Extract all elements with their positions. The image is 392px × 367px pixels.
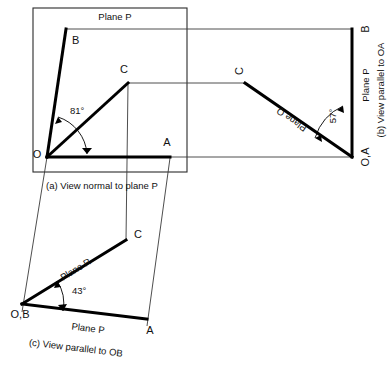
panel-b-plane-label-q: Plane Q — [274, 106, 309, 135]
drop-line-o — [22, 157, 47, 312]
panel-c-geometry — [22, 240, 147, 319]
projection-lines — [22, 8, 352, 326]
panel-b-point-b: B — [359, 25, 371, 32]
panel-c-point-c: C — [134, 228, 142, 240]
panel-a-point-o: O — [33, 148, 42, 160]
panel-a-geometry — [47, 29, 170, 157]
panel-c-caption: (c) View parallel to OB — [28, 337, 123, 359]
panel-a-plane-label: Plane P — [98, 11, 131, 22]
panel-c-plane-label-p: Plane P — [71, 321, 105, 336]
panel-c-angle-43: 43° — [72, 285, 87, 296]
line-ob-a — [47, 29, 66, 157]
panel-a-angle-81: 81° — [70, 105, 85, 116]
panel-b-caption: (b) View parallel to OA — [375, 42, 386, 138]
figure-canvas: Plane P B C O A 81° (a) View normal to p… — [0, 0, 392, 367]
panel-b-point-c: C — [233, 67, 245, 75]
panel-b-angle-57: 57° — [327, 109, 338, 124]
panel-a-caption: (a) View normal to plane P — [46, 180, 158, 191]
panel-a-point-c: C — [120, 63, 128, 75]
panel-b-plane-label-p: Plane P — [360, 68, 371, 101]
panel-a-point-a: A — [163, 136, 171, 148]
panel-b-geometry — [245, 29, 352, 157]
panel-b-point-oa: O,A — [359, 147, 371, 167]
arc-arrow-81-lower — [82, 148, 92, 154]
panel-c-plane-label-r: Plane R — [58, 256, 93, 283]
line-obc-to-a — [22, 304, 147, 319]
panel-c-point-a: A — [146, 324, 154, 336]
panel-a-point-b: B — [72, 34, 79, 46]
panel-c-point-ob: O,B — [11, 308, 30, 320]
drop-line-c — [126, 84, 128, 240]
